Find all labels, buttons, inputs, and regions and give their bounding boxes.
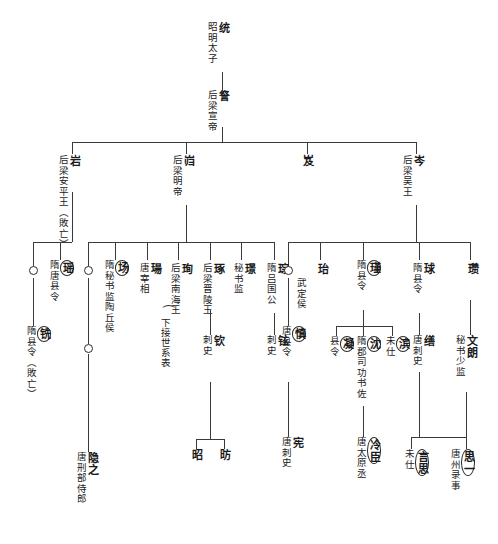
node-cen: 岑 后梁吴王 [402,155,424,197]
node-name: 统 [218,22,229,34]
node-cha: 詧 后梁宣帝 [207,90,229,132]
node-office: 隋县令 [356,260,366,292]
node-chang: 场 隋秘书监陶丘侯 [104,260,129,334]
node-shen2: 沈 隋郡司功书佐 [356,336,381,399]
node-name: 宪 [292,437,303,449]
node-name: 岑 [413,155,424,167]
node-shan: 缮 唐刺史 [412,335,434,367]
connector [419,372,420,437]
node-name: 冷臣 [367,437,381,464]
connector [88,278,89,344]
node-name: 岿 [183,155,194,167]
node-office: 唐宰相 [139,263,149,295]
node-name: 隐之 [87,452,98,475]
connector [416,142,417,154]
node-name: 滨 [396,336,410,352]
node-zan: 瓒 [466,263,478,275]
node-yao: 瑶 隋唐县令 [49,260,74,302]
connector [147,242,148,260]
connector [33,278,34,326]
node-office: 隋吕国公 [266,263,276,305]
node-name: 慎 [292,326,306,342]
node-empty-circle [29,266,38,275]
connector [392,326,393,336]
node-fang: 昉 [218,449,230,461]
connector [222,127,223,142]
node-name: 沈 [367,336,381,352]
connector [336,326,337,336]
node-name: 钦 [213,335,224,347]
sibling-bus [72,142,416,143]
connector [466,392,467,437]
connector [210,242,211,260]
node-name: 文朗 [466,335,477,358]
connector [363,242,364,260]
node-chang2: 瑒 唐宰相 [139,263,161,295]
node-office: 后梁宣帝 [207,90,217,132]
connector [72,192,73,242]
node-name: 凝 [340,336,354,352]
node-office: 后梁明帝 [172,155,182,197]
node-bin: 滨 未仕 [385,336,410,357]
connector [274,313,275,335]
connector [222,72,223,90]
node-name: 瑒 [150,263,161,275]
node-name: 珆 [317,263,328,275]
sibling-bus [336,326,392,327]
node-tong: 统 昭明太子 [207,22,229,64]
node-office: 隋县令 [412,263,422,295]
node-name: 岌 [302,155,313,167]
node-name: 缮 [423,335,434,347]
connector [411,437,412,449]
node-kui: 岿 后梁明帝 [172,155,194,197]
node-office: 后梁晋陵王 [202,263,212,316]
node-jing: 璟 秘书监 [233,263,255,295]
connector [307,142,308,154]
node-office: 秘书少监 [455,335,465,377]
node-name: 珣 [181,263,192,275]
node-name: 詧 [218,90,229,102]
sibling-bus [411,437,466,438]
connector [178,242,179,260]
node-office: 后梁安平王（敗亡） [58,155,68,250]
connector [88,354,89,452]
node-yansi: 言思 未仕 [404,449,429,476]
node-office: 唐刺史 [281,437,291,469]
node-lengju: 冷臣 唐太原丞 [356,437,381,479]
node-office: 唐刑部侍郎 [76,452,86,505]
node-name: 球 [423,263,434,275]
connector [72,142,73,154]
node-name: 言思 [415,449,429,476]
connector [419,242,420,260]
connector [363,406,364,437]
node-name: 瓒 [467,263,478,275]
connector [33,242,34,266]
connector [470,300,471,335]
node-name: 铣 [37,326,51,342]
node-shen: 慎 唐县令 [281,326,306,358]
connector [224,439,225,449]
connector [241,242,242,260]
node-wenlang: 文朗 秘书少监 [455,335,477,377]
node-yan: 岩 后梁安平王（敗亡） [58,155,80,250]
node-name: 璟 [244,263,255,275]
genealogy-chart: 统 昭明太子 詧 后梁宣帝 岩 后梁安平王（敗亡） 岿 后梁明帝 岌 岑 后梁吴… [0,0,498,544]
node-name: 琢 [213,263,224,275]
node-office: 未仕 [404,449,414,470]
node-empty-circle [284,266,293,275]
node-office: 隋唐县令 [49,260,59,302]
connector [186,142,187,154]
connector [196,439,197,449]
node-xian: 铣 隋县令（敗亡） [26,326,51,400]
node-office: 隋县令（敗亡） [26,326,36,400]
node-jin: 瑾 隋县令 [356,260,381,292]
annotation-xia-jie: 下接世系表 [160,318,170,368]
node-zhuo: 琢 后梁晋陵王 [202,263,224,316]
node-ji: 岌 [301,155,313,167]
node-office: 未仕 [385,336,395,357]
node-qin: 钦 刺史 [202,335,224,356]
connector [186,205,187,242]
node-name: 昉 [219,449,230,461]
node-office: 唐县令 [281,326,291,358]
connector [363,310,364,326]
